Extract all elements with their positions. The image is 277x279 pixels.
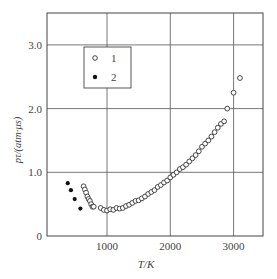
y-tick-label: 0: [37, 230, 43, 242]
y-tick-label: 1.0: [28, 166, 42, 178]
open-circle-point: [196, 149, 201, 154]
filled-circle-point: [69, 188, 73, 192]
plot-frame: [47, 13, 263, 236]
filled-circle-point: [73, 197, 77, 201]
y-tick-labels: 01.02.03.0: [28, 39, 42, 242]
x-tick-labels: 100020003000: [96, 240, 245, 252]
open-circle-point: [238, 76, 243, 81]
open-circle-marker-icon: [93, 56, 98, 61]
filled-circle-point: [66, 181, 70, 185]
y-tick-label: 2.0: [28, 103, 42, 115]
legend: 1 2: [84, 47, 131, 88]
x-tick-label: 3000: [223, 240, 246, 252]
open-circle-point: [222, 119, 227, 124]
y-tick-label: 3.0: [28, 39, 42, 51]
x-axis-label: T/K: [138, 258, 155, 270]
open-circle-point: [212, 130, 217, 135]
filled-circle-marker-icon: [93, 75, 97, 79]
x-tick-label: 2000: [159, 240, 182, 252]
y-axis-label: pτ/(atm·μs): [12, 116, 24, 164]
x-tick-label: 1000: [96, 240, 119, 252]
grid-lines: [47, 13, 263, 236]
legend-label-2: 2: [111, 71, 117, 83]
open-circle-point: [225, 106, 230, 111]
open-circle-point: [231, 90, 236, 95]
filled-circle-point: [78, 207, 82, 211]
legend-label-1: 1: [111, 52, 117, 64]
scatter-chart: 01.02.03.0 100020003000 1 2 T/K pτ/(atm·…: [0, 0, 277, 279]
open-circle-point: [91, 204, 96, 209]
data-points: [66, 76, 243, 213]
open-circle-point: [209, 134, 214, 139]
